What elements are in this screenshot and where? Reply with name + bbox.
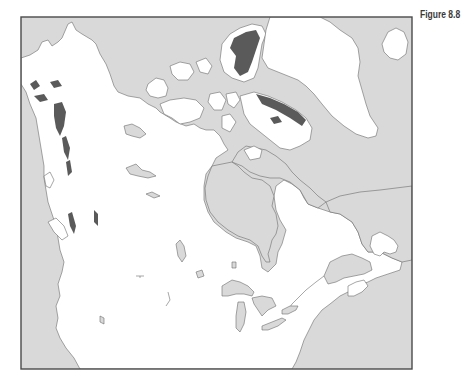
figure-label: Figure 8.8: [420, 9, 460, 20]
small-lake-5: [232, 262, 236, 268]
map-figure: [0, 0, 470, 388]
map-canvas: [0, 0, 470, 388]
